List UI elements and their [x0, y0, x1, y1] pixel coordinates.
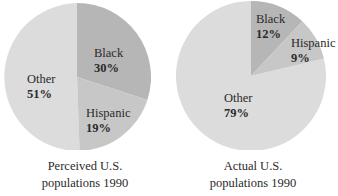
- label-black: Black 30%: [94, 46, 123, 76]
- label-hispanic: Hispanic 9%: [291, 36, 335, 66]
- label-hispanic: Hispanic 19%: [86, 106, 130, 136]
- actual-pie-chart: Black 12% Hispanic 9% Other 79% Actual U…: [168, 0, 338, 196]
- label-other: Other 51%: [27, 72, 55, 102]
- label-black: Black 12%: [256, 12, 285, 42]
- label-other: Other 79%: [224, 91, 252, 121]
- caption-perceived: Perceived U.S. populations 1990: [0, 158, 170, 192]
- caption-actual: Actual U.S. populations 1990: [168, 158, 338, 192]
- perceived-pie-chart: Black 30% Other 51% Hispanic 19% Perceiv…: [0, 0, 170, 196]
- actual-pie-svg: [168, 0, 338, 150]
- perceived-pie-svg: [0, 0, 170, 150]
